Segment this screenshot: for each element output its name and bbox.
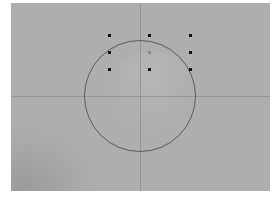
marker-dot: [189, 51, 192, 54]
marker-dot: [108, 34, 111, 37]
marker-dot-center: [148, 51, 151, 54]
marker-dot: [108, 68, 111, 71]
reticle-circle: [84, 40, 196, 152]
camera-viewport[interactable]: [11, 3, 270, 191]
marker-dot: [148, 34, 151, 37]
marker-dot: [189, 34, 192, 37]
marker-dot: [148, 68, 151, 71]
marker-dot: [189, 68, 192, 71]
shadow-region: [11, 123, 101, 191]
marker-dot: [108, 51, 111, 54]
